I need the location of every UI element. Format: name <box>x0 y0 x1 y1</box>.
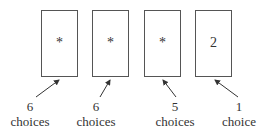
slot-content: * <box>42 34 77 52</box>
arrow-slot-4 <box>215 80 238 97</box>
slot-box-2: * <box>92 10 129 77</box>
choice-count: 5 <box>145 99 205 114</box>
arrow-slot-3 <box>163 80 176 97</box>
choice-unit: choices <box>0 114 60 129</box>
arrow-slot-2 <box>100 80 110 97</box>
slot-box-1: * <box>41 10 78 77</box>
choice-count: 6 <box>0 99 60 114</box>
slot-content: * <box>145 34 180 52</box>
slot-label-3: 5 choices <box>145 99 205 129</box>
choice-unit: choices <box>145 114 205 129</box>
slot-label-1: 6 choices <box>0 99 60 129</box>
choice-unit: choices <box>66 114 126 129</box>
slot-content: 2 <box>196 34 231 52</box>
slot-label-4: 1 choice <box>209 99 269 129</box>
arrow-slot-1 <box>36 80 59 97</box>
slot-content: * <box>93 34 128 52</box>
slot-box-4: 2 <box>195 10 232 77</box>
choice-unit: choice <box>209 114 269 129</box>
slot-box-3: * <box>144 10 181 77</box>
choice-count: 1 <box>209 99 269 114</box>
slot-label-2: 6 choices <box>66 99 126 129</box>
choice-count: 6 <box>66 99 126 114</box>
